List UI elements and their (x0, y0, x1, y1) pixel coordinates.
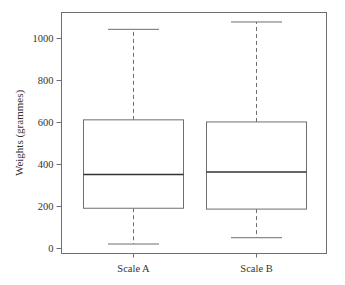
y-tick-label: 1000 (33, 33, 54, 44)
boxplot-chart: 02004006008001000 Scale AScale B Weights… (0, 0, 345, 285)
x-axis: Scale AScale B (117, 254, 272, 274)
y-tick-label: 600 (38, 117, 54, 128)
y-tick-label: 400 (38, 159, 54, 170)
y-tick-label: 800 (38, 75, 54, 86)
y-tick-label: 0 (48, 243, 53, 254)
y-axis-label: Weights (grammes) (13, 90, 26, 177)
iqr-box (84, 120, 184, 208)
y-axis: 02004006008001000 (33, 33, 62, 254)
y-tick-label: 200 (38, 201, 54, 212)
box-scale-b (207, 22, 307, 238)
x-tick-label: Scale A (117, 263, 150, 274)
iqr-box (207, 122, 307, 209)
x-tick-label: Scale B (240, 263, 272, 274)
box-scale-a (84, 29, 184, 244)
boxes (84, 22, 307, 244)
